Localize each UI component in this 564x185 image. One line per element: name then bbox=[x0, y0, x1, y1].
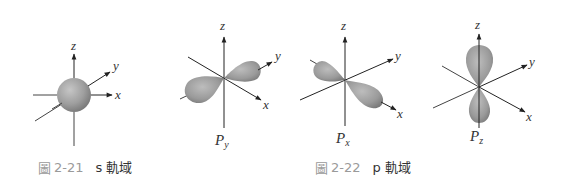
x-axis-label: x bbox=[262, 97, 269, 112]
y-axis-lower bbox=[35, 104, 62, 121]
py-lobe-negative bbox=[185, 76, 224, 103]
pz-label: Pz bbox=[469, 128, 483, 146]
figure-number-text: 2-21 bbox=[54, 160, 84, 175]
figure-title: p 軌域 bbox=[373, 160, 411, 175]
s-orbital-diagram: z x y bbox=[33, 38, 121, 146]
z-axis-label: z bbox=[219, 18, 225, 33]
px-lobe-positive bbox=[345, 80, 383, 108]
y-axis-label: y bbox=[393, 48, 401, 63]
y-axis-label: y bbox=[273, 48, 281, 63]
pz-orbital-diagram: z x y Pz bbox=[433, 17, 535, 146]
figure-number: 圖2-22 bbox=[315, 160, 361, 175]
z-axis-label: z bbox=[70, 38, 76, 53]
x-axis-label: x bbox=[525, 109, 532, 124]
y-axis-label: y bbox=[527, 54, 535, 69]
px-lobe-negative bbox=[313, 61, 345, 82]
figure-title: s 軌域 bbox=[96, 160, 133, 175]
y-axis-front bbox=[52, 103, 62, 109]
x-axis-arrow bbox=[381, 102, 396, 110]
y-axis-label: y bbox=[111, 58, 119, 73]
py-label: Py bbox=[214, 132, 229, 150]
s-orbital-sphere bbox=[57, 78, 91, 112]
caption-figure-2-22: 圖2-22p 軌域 bbox=[315, 157, 411, 177]
z-axis-label: z bbox=[340, 18, 346, 33]
x-axis-label: x bbox=[114, 87, 121, 102]
x-axis-label: x bbox=[396, 106, 403, 121]
figure-prefix-glyph: 圖 bbox=[38, 158, 51, 177]
px-orbital-diagram: z x y Px bbox=[300, 18, 403, 148]
figure-number: 圖2-21 bbox=[38, 160, 84, 175]
figure-prefix-glyph: 圖 bbox=[315, 158, 328, 177]
y-axis-arrow bbox=[88, 72, 110, 86]
y-axis-arrow bbox=[258, 62, 272, 70]
figure-number-text: 2-22 bbox=[331, 160, 361, 175]
caption-figure-2-21: 圖2-21s 軌域 bbox=[38, 157, 132, 177]
z-axis-label: z bbox=[474, 17, 480, 32]
py-lobe-positive bbox=[224, 61, 261, 82]
px-label: Px bbox=[335, 130, 350, 148]
py-orbital-diagram: z x y Py bbox=[180, 18, 281, 150]
